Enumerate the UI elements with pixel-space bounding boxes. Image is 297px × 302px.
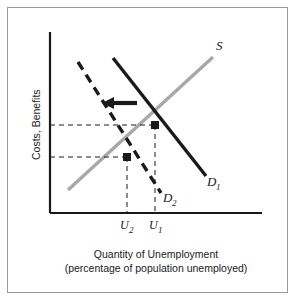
x-axis-title-line-2: (percentage of population unemployed) bbox=[65, 262, 248, 274]
plot-area: S D 1 D 2 U 2 U 1 Costs, Benefits Quanti… bbox=[0, 0, 297, 302]
supply-curve bbox=[68, 57, 213, 190]
supply-curve-label: S bbox=[216, 38, 223, 53]
economics-diagram-figure: S D 1 D 2 U 2 U 1 Costs, Benefits Quanti… bbox=[0, 0, 297, 302]
y-axis-title: Costs, Benefits bbox=[30, 89, 42, 160]
equilibrium-point-1 bbox=[151, 121, 159, 129]
x-axis-title-line-1: Quantity of Unemployment bbox=[94, 248, 218, 260]
x-tick-label-u2-subscript: 2 bbox=[129, 225, 134, 235]
demand-curve-1-label-subscript: 1 bbox=[216, 182, 221, 192]
demand-curve-2 bbox=[78, 62, 161, 193]
demand-curve-2-label-subscript: 2 bbox=[172, 198, 177, 208]
x-tick-label-u1-subscript: 1 bbox=[158, 225, 163, 235]
equilibrium-point-2 bbox=[123, 153, 131, 161]
